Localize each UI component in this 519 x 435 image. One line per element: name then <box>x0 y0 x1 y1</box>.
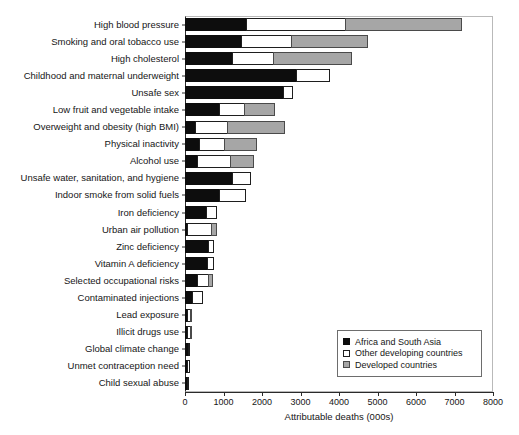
bar-segment-africa <box>185 257 208 270</box>
bar-segment-other <box>296 69 330 82</box>
category-label: Selected occupational risks <box>64 276 179 286</box>
stacked-bar <box>185 18 462 31</box>
bar-segment-other <box>207 257 214 270</box>
category-label: Zinc deficiency <box>116 242 179 252</box>
x-axis-tick-label: 4000 <box>329 397 349 407</box>
bar-segment-developed <box>190 326 193 339</box>
category-label: Overweight and obesity (high BMI) <box>33 122 179 132</box>
bar-segment-other <box>219 103 245 116</box>
category-label: Unsafe water, sanitation, and hygiene <box>21 173 179 183</box>
bar-segment-africa <box>185 189 220 202</box>
bar-segment-other <box>187 377 190 390</box>
stacked-bar <box>185 103 275 116</box>
category-label: Unsafe sex <box>131 88 179 98</box>
attributable-deaths-bar-chart: High blood pressureSmoking and oral toba… <box>0 0 519 435</box>
legend-item-other-developing-countries: Other developing countries <box>343 348 476 358</box>
x-axis-tick-label: 1000 <box>213 397 233 407</box>
category-label: Urban air pollution <box>102 225 179 235</box>
x-axis-tick <box>185 392 186 396</box>
stacked-bar <box>185 121 285 134</box>
legend-swatch-africa-icon <box>343 338 350 345</box>
bar-segment-developed <box>224 138 257 151</box>
stacked-bar <box>185 377 189 390</box>
bar-segment-other <box>187 360 190 373</box>
stacked-bar <box>185 155 254 168</box>
category-label: Child sexual abuse <box>99 378 179 388</box>
x-axis-tick <box>378 392 379 396</box>
legend-label-africa: Africa and South Asia <box>355 337 441 347</box>
stacked-bar <box>185 326 192 339</box>
x-axis-tick-label: 0 <box>182 397 187 407</box>
legend-label-other: Other developing countries <box>355 348 463 358</box>
bar-segment-developed <box>244 103 276 116</box>
stacked-bar <box>185 69 330 82</box>
category-label: Indoor smoke from solid fuels <box>55 190 179 200</box>
bar-segment-africa <box>185 69 297 82</box>
stacked-bar <box>185 35 368 48</box>
bar-segment-africa <box>185 138 200 151</box>
category-label: Alcohol use <box>130 156 179 166</box>
x-axis-tick-label: 5000 <box>367 397 387 407</box>
bar-segment-africa <box>185 52 233 65</box>
stacked-bar <box>185 138 257 151</box>
stacked-bar <box>185 206 217 219</box>
stacked-bar <box>185 309 192 322</box>
category-label: Vitamin A deficiency <box>95 259 179 269</box>
bar-segment-other <box>219 189 246 202</box>
x-axis-tick <box>455 392 456 396</box>
bar-segment-other <box>246 18 345 31</box>
legend-swatch-other-icon <box>343 350 350 357</box>
stacked-bar <box>185 52 352 65</box>
category-label: Lead exposure <box>116 310 179 320</box>
bar-segment-africa <box>185 172 233 185</box>
bar-segment-developed <box>273 52 352 65</box>
bar-segment-other <box>232 52 274 65</box>
bar-segment-other <box>232 172 251 185</box>
stacked-bar <box>185 343 190 356</box>
stacked-bar <box>185 172 251 185</box>
category-label: High blood pressure <box>94 20 179 30</box>
legend-item-developed-countries: Developed countries <box>343 360 476 370</box>
stacked-bar <box>185 223 217 236</box>
category-label: Unmet contraception need <box>68 361 179 371</box>
x-axis-tick <box>301 392 302 396</box>
category-label: Global climate change <box>85 344 179 354</box>
category-label: Low fruit and vegetable intake <box>53 105 179 115</box>
bar-segment-other <box>283 86 293 99</box>
bar-segment-developed <box>345 18 462 31</box>
stacked-bar <box>185 274 213 287</box>
x-axis-tick-label: 7000 <box>444 397 464 407</box>
chart-legend: Africa and South Asia Other developing c… <box>337 330 482 377</box>
stacked-bar <box>185 240 214 253</box>
bar-segment-other <box>208 240 214 253</box>
bar-segment-africa <box>185 86 284 99</box>
category-label: Smoking and oral tobacco use <box>51 37 179 47</box>
bar-segment-developed <box>211 223 217 236</box>
bar-segment-other <box>187 223 212 236</box>
bar-segment-other <box>192 291 203 304</box>
category-label: Childhood and maternal underweight <box>24 71 179 81</box>
x-axis-tick <box>224 392 225 396</box>
x-axis-tick-label: 6000 <box>406 397 426 407</box>
legend-swatch-developed-icon <box>343 361 350 368</box>
bar-segment-developed <box>208 274 213 287</box>
category-label: High cholesterol <box>111 54 179 64</box>
x-axis-tick <box>339 392 340 396</box>
x-axis-tick <box>416 392 417 396</box>
bar-segment-other <box>206 206 217 219</box>
bar-segment-other <box>188 343 191 356</box>
category-label: Physical inactivity <box>105 139 179 149</box>
bar-segment-africa <box>185 103 220 116</box>
category-label: Illicit drugs use <box>116 327 179 337</box>
category-label: Contaminated injections <box>78 293 179 303</box>
stacked-bar <box>185 360 190 373</box>
legend-label-developed: Developed countries <box>355 360 437 370</box>
bar-segment-africa <box>185 206 207 219</box>
bar-segment-developed <box>230 155 254 168</box>
bar-segment-other <box>197 155 231 168</box>
bar-segment-africa <box>185 18 247 31</box>
stacked-bar <box>185 257 214 270</box>
bar-segment-developed <box>291 35 368 48</box>
x-axis-tick <box>493 392 494 396</box>
category-label: Iron deficiency <box>118 208 179 218</box>
